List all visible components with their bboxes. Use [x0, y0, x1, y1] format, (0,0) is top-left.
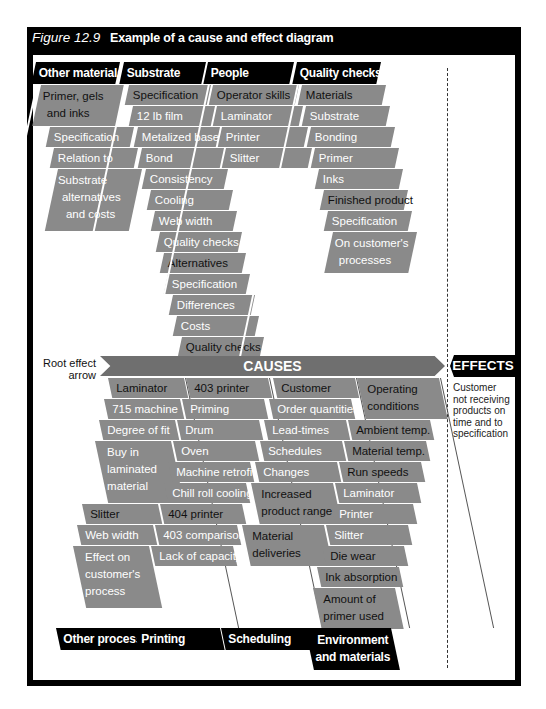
cause-item: Laminator	[108, 378, 188, 398]
cause-item-label: Substratealternativesand costs	[58, 172, 121, 223]
label-line: Primer, gels	[43, 88, 104, 105]
cause-item-label: Order quantities	[277, 399, 359, 419]
category-label: Environmentand materials	[315, 632, 390, 666]
bottom-category-header: Other processes	[56, 628, 141, 650]
label-line: Laminator	[116, 378, 167, 398]
cause-item-label: Quality checks	[185, 337, 260, 357]
cause-item-label: Substrate	[310, 106, 359, 126]
cause-item-label: Operatingconditions	[367, 381, 419, 415]
label-line: Slitter	[230, 148, 259, 168]
label-line: Drum	[185, 420, 213, 440]
label-line: Scheduling	[228, 628, 291, 650]
label-line: Consistency	[150, 169, 213, 189]
label-line: primer used	[323, 608, 384, 625]
cause-item: Quality checks	[155, 232, 241, 252]
cause-item-label: Increasedproduct range	[261, 486, 332, 520]
cause-item-label: Web width	[159, 211, 212, 231]
label-line: Chill roll cooling	[172, 483, 253, 503]
effect-line: time and to	[453, 417, 517, 429]
label-line: Run speeds	[348, 462, 409, 482]
label-line: deliveries	[252, 545, 301, 562]
label-line: Alternatives	[168, 253, 228, 273]
bottom-category-header: Environmentand materials	[305, 628, 400, 670]
cause-item: Drum	[177, 420, 263, 440]
label-line: 12 lb film	[137, 106, 183, 126]
label-line: Laminator	[343, 483, 394, 503]
label-line: Metalized base	[141, 127, 218, 147]
label-line: Lack of capacity	[159, 546, 241, 566]
cause-item-label: Relation to	[58, 148, 113, 168]
label-line: process	[85, 583, 140, 600]
cause-item-label: Laminator	[116, 378, 167, 398]
cause-item: Primer, gelsand inks	[32, 85, 125, 126]
label-line: Slitter	[334, 525, 363, 545]
label-line: material	[107, 478, 157, 495]
cause-item-label: Slitter	[334, 525, 363, 545]
cause-item-label: Bonding	[314, 127, 356, 147]
label-line: Buy in	[107, 444, 157, 461]
cause-item-label: Run speeds	[348, 462, 409, 482]
cause-item-label: Printer	[225, 127, 259, 147]
cause-item: Operator skills	[209, 85, 299, 105]
label-line: Changes	[264, 462, 310, 482]
cause-item-label: Material temp.	[352, 441, 425, 461]
cause-item: Customer	[273, 378, 359, 398]
cause-item: Ink absorption	[317, 567, 403, 587]
label-line: Environment	[315, 632, 390, 649]
label-line: Die wear	[330, 546, 375, 566]
cause-item: Chill roll cooling	[164, 483, 250, 503]
cause-item-label: Materialdeliveries	[252, 528, 301, 562]
label-line: Ambient temp.	[356, 420, 430, 440]
cause-item: Changes	[255, 462, 341, 482]
label-line: Costs	[181, 316, 210, 336]
figure-caption: Example of a cause and effect diagram	[110, 31, 333, 45]
label-line: Substrate	[310, 106, 359, 126]
cause-item: Differences	[169, 295, 255, 315]
cause-item-label: Consistency	[150, 169, 213, 189]
cause-item: Metalized base	[133, 127, 219, 147]
label-line: and materials	[315, 649, 390, 666]
cause-item: Quality checks	[177, 337, 263, 357]
label-line: Quality checks	[185, 337, 260, 357]
cause-item: 404 printer	[160, 504, 246, 524]
cause-item: Material temp.	[344, 441, 430, 461]
cause-item-label: Operator skills	[217, 85, 291, 105]
cause-item-label: Metalized base	[141, 127, 218, 147]
cause-item-label: Priming	[190, 399, 229, 419]
cause-item-label: Lack of capacity	[159, 546, 241, 566]
top-category-header: Substrate	[119, 62, 206, 84]
label-line: Operating	[367, 381, 419, 398]
category-label: Quality checks	[300, 62, 382, 84]
effect-divider-dashed-line	[447, 68, 448, 668]
cause-item: Cooling	[147, 190, 233, 210]
cause-item-label: Bond	[146, 148, 173, 168]
cause-item: Bonding	[306, 127, 394, 147]
cause-item: Printer	[331, 504, 417, 524]
figure-title-bar: Figure 12.9 Example of a cause and effec…	[30, 28, 520, 48]
cause-item-label: Ink absorption	[326, 567, 398, 587]
cause-item: Web width	[77, 525, 157, 545]
cause-item-label: On customer'sprocesses	[334, 235, 408, 269]
label-line: 404 printer	[168, 504, 223, 524]
label-line: Finished product	[328, 190, 413, 210]
cause-item-label: Primer, gelsand inks	[43, 88, 104, 122]
label-line: Printer	[339, 504, 373, 524]
cause-item-label: Costs	[181, 316, 210, 336]
cause-item: 715 machine	[104, 399, 184, 419]
cause-item: Specification	[164, 274, 250, 294]
cause-item: Lack of capacity	[151, 546, 237, 566]
cause-item-label: Slitter	[230, 148, 259, 168]
cause-item: Oven	[173, 441, 259, 461]
cause-item-label: Drum	[185, 420, 213, 440]
label-line: Printing	[141, 628, 185, 650]
label-line: Bonding	[314, 127, 356, 147]
effects-label: EFFECTS	[450, 355, 516, 377]
label-line: Ink absorption	[326, 567, 398, 587]
cause-item-label: Primer	[319, 148, 353, 168]
category-label: People	[211, 62, 249, 84]
effect-description: Customer not receiving products on time …	[453, 382, 517, 440]
label-line: Specification	[332, 211, 397, 231]
cause-item: Finished product	[320, 190, 408, 210]
cause-item: Schedules	[260, 441, 346, 461]
cause-item-label: Die wear	[330, 546, 375, 566]
